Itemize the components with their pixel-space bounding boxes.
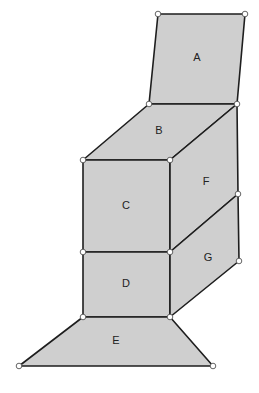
shape-diagram: ABCDEFG (0, 0, 259, 393)
vertex-point (16, 363, 22, 369)
face-label-g: G (204, 251, 213, 263)
face-label-f: F (203, 175, 210, 187)
face-label-d: D (122, 277, 130, 289)
vertex-point (234, 101, 240, 107)
vertex-point (210, 363, 216, 369)
vertex-point (146, 101, 152, 107)
vertex-point (167, 314, 173, 320)
face-label-a: A (193, 51, 201, 63)
face-label-c: C (122, 199, 130, 211)
vertex-point (80, 249, 86, 255)
vertex-point (80, 314, 86, 320)
vertex-point (155, 11, 161, 17)
vertex-point (167, 249, 173, 255)
vertex-point (235, 191, 241, 197)
vertex-point (167, 157, 173, 163)
vertex-point (80, 157, 86, 163)
vertex-point (242, 11, 248, 17)
face-label-e: E (112, 334, 119, 346)
face-label-b: B (155, 124, 162, 136)
vertex-point (236, 258, 242, 264)
